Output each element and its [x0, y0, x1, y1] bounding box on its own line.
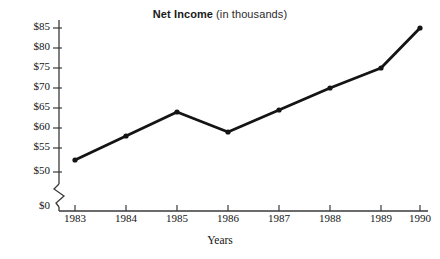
data-point-1988 [327, 85, 332, 90]
x-axis-title: Years [0, 234, 440, 246]
data-point-1983 [72, 157, 77, 162]
data-point-1986 [225, 129, 230, 134]
y-tick-label-55: $55 [34, 140, 51, 152]
data-point-1984 [123, 133, 128, 138]
data-point-1989 [378, 65, 383, 70]
y-tick-label-70: $70 [34, 80, 51, 92]
x-tick-label-1990: 1990 [390, 212, 440, 224]
y-tick-label-60: $60 [34, 120, 51, 132]
y-tick-label-80: $80 [34, 40, 51, 52]
y-tick-label-75: $75 [34, 60, 51, 72]
data-point-1985 [174, 109, 179, 114]
y-tick-label-0: $0 [39, 199, 50, 211]
y-tick-label-65: $65 [34, 100, 51, 112]
data-point-markers [72, 25, 422, 162]
data-line-net-income [75, 28, 420, 160]
data-point-1987 [276, 107, 281, 112]
y-axis-break-zigzag [54, 184, 64, 207]
chart-container: Net Income (in thousands) [0, 0, 440, 259]
y-tick-label-85: $85 [34, 20, 51, 32]
x-axis-ticks [75, 205, 420, 211]
data-point-1990 [417, 25, 422, 30]
y-axis-ticks [53, 28, 62, 172]
y-tick-label-50: $50 [34, 164, 51, 176]
